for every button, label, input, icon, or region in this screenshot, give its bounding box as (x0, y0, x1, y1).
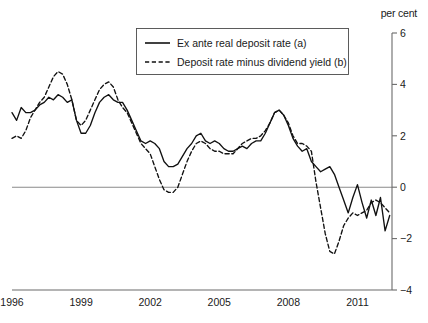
x-tick-label: 1999 (69, 296, 93, 308)
chart-legend: Ex ante real deposit rate (a) Deposit ra… (137, 29, 349, 75)
x-tick-labels: 199619992002200520082011 (0, 296, 369, 308)
series-line-b (12, 72, 390, 254)
y-tick-label: 2 (400, 130, 406, 142)
x-tick-label: 2011 (346, 296, 369, 308)
chart-container: 199619992002200520082011 6420−2−4 per ce… (0, 0, 428, 323)
y-tick-label: 6 (400, 27, 406, 39)
x-tick-label: 2005 (208, 296, 232, 308)
x-tick-label: 2002 (139, 296, 163, 308)
y-tick-label: 0 (400, 181, 406, 193)
y-tick-label: 4 (400, 78, 406, 90)
series-lines (12, 72, 390, 254)
line-chart: 199619992002200520082011 6420−2−4 per ce… (0, 0, 428, 323)
x-tick-label: 2008 (277, 296, 301, 308)
series-line-a (12, 95, 390, 231)
x-tick-label: 1996 (0, 296, 24, 308)
y-tick-label: −4 (400, 284, 412, 296)
legend-label-series-a: Ex ante real deposit rate (a) (177, 37, 307, 49)
y-axis (392, 33, 397, 290)
legend-label-series-b: Deposit rate minus dividend yield (b) (177, 56, 347, 68)
axis-unit-label: per cent (381, 7, 418, 19)
y-tick-labels: 6420−2−4 (400, 27, 412, 296)
y-tick-label: −2 (400, 232, 412, 244)
